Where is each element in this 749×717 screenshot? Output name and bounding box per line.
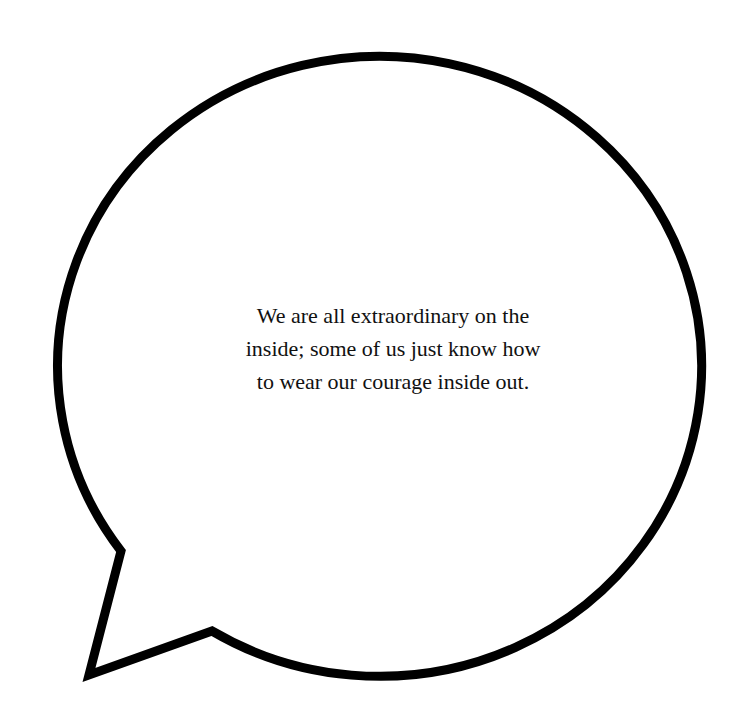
quote-line-1: We are all extraordinary on the xyxy=(193,299,593,332)
canvas: We are all extraordinary on the inside; … xyxy=(0,0,749,717)
quote-line-2: inside; some of us just know how xyxy=(193,332,593,365)
quote-text: We are all extraordinary on the inside; … xyxy=(193,299,593,398)
quote-line-3: to wear our courage inside out. xyxy=(193,365,593,398)
